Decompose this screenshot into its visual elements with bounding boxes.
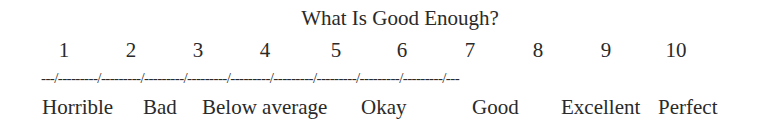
scale-label-below-average: Below average xyxy=(202,95,327,120)
scale-number: 1 xyxy=(59,38,70,63)
scale-label-perfect: Perfect xyxy=(658,95,717,120)
scale-number: 5 xyxy=(331,38,342,63)
scale-number: 6 xyxy=(397,38,408,63)
scale-number: 7 xyxy=(465,38,476,63)
scale-number: 8 xyxy=(533,38,544,63)
scale-label-bad: Bad xyxy=(143,95,177,120)
scale-label-good: Good xyxy=(472,95,519,120)
scale-number: 3 xyxy=(193,38,204,63)
scale-label-excellent: Excellent xyxy=(561,95,640,120)
scale-label-horrible: Horrible xyxy=(42,95,113,120)
scale-number: 9 xyxy=(601,38,612,63)
scale-dash-line: ---/---------/---------/---------/------… xyxy=(41,70,459,87)
scale-number: 4 xyxy=(260,38,271,63)
diagram-title: What Is Good Enough? xyxy=(0,6,760,31)
scale-number: 10 xyxy=(666,38,687,63)
scale-number: 2 xyxy=(126,38,137,63)
scale-label-okay: Okay xyxy=(361,95,407,120)
